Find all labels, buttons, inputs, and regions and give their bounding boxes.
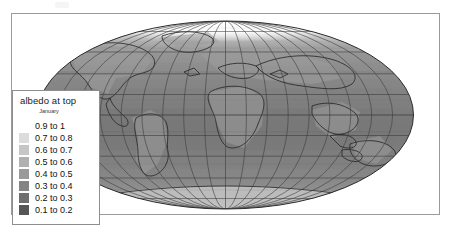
legend-swatch [19, 121, 29, 131]
legend-row: 0.4 to 0.5 [13, 168, 99, 180]
legend-label: 0.7 to 0.8 [35, 133, 73, 143]
legend-label: 0.9 to 1 [35, 121, 65, 131]
legend-label: 0.6 to 0.7 [35, 145, 73, 155]
legend-swatch [19, 157, 29, 167]
legend-swatch [19, 145, 29, 155]
scan-artifact [55, 2, 69, 8]
legend-swatch [19, 181, 29, 191]
legend-swatch [19, 205, 29, 215]
legend-row: 0.7 to 0.8 [13, 132, 99, 144]
legend-swatch [19, 169, 29, 179]
legend-label: 0.4 to 0.5 [35, 169, 73, 179]
legend-swatch [19, 133, 29, 143]
legend-label: 0.5 to 0.6 [35, 157, 73, 167]
legend-label: 0.2 to 0.3 [35, 193, 73, 203]
legend-row: 0.5 to 0.6 [13, 156, 99, 168]
legend-label: 0.3 to 0.4 [35, 181, 73, 191]
legend-row: 0.9 to 1 [13, 120, 99, 132]
legend-swatch [19, 193, 29, 203]
legend-title: albedo at top [13, 95, 99, 107]
legend-row: 0.1 to 0.2 [13, 204, 99, 216]
legend-label: 0.1 to 0.2 [35, 205, 73, 215]
map-legend: albedo at top January 0.9 to 10.7 to 0.8… [12, 90, 100, 225]
legend-subtitle: January [13, 107, 99, 115]
legend-row: 0.3 to 0.4 [13, 180, 99, 192]
figure-container: albedo at top January 0.9 to 10.7 to 0.8… [0, 0, 455, 231]
legend-items: 0.9 to 10.7 to 0.80.6 to 0.70.5 to 0.60.… [13, 120, 99, 216]
chart-frame: albedo at top January 0.9 to 10.7 to 0.8… [11, 13, 440, 215]
legend-row: 0.2 to 0.3 [13, 192, 99, 204]
legend-row: 0.6 to 0.7 [13, 144, 99, 156]
